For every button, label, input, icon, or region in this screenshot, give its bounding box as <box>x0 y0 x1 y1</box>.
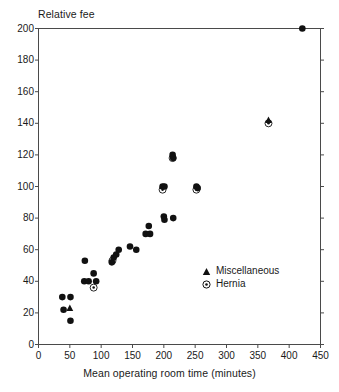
y-tick-label: 200 <box>4 23 34 34</box>
data-point <box>170 215 177 222</box>
data-point <box>90 270 97 277</box>
x-tick-label: 100 <box>86 350 116 361</box>
data-point <box>67 318 74 325</box>
data-point <box>115 246 122 253</box>
x-tick-label: 400 <box>274 350 304 361</box>
data-point <box>59 294 66 301</box>
scatter-plot-figure: Relative fee Mean operating room time (m… <box>0 0 339 392</box>
data-point <box>194 185 201 192</box>
y-tick-label: 60 <box>4 244 34 255</box>
x-tick-label: 450 <box>306 350 336 361</box>
y-tick-label: 120 <box>4 149 34 160</box>
legend-label-miscellaneous: Miscellaneous <box>216 266 279 276</box>
triangle-marker-icon <box>202 267 211 276</box>
data-point <box>161 183 168 190</box>
data-point <box>93 278 100 285</box>
plot-frame <box>39 29 321 345</box>
y-tick-label: 80 <box>4 212 34 223</box>
plot-canvas <box>0 0 339 392</box>
y-tick-label: 20 <box>4 307 34 318</box>
y-tick-label: 160 <box>4 86 34 97</box>
legend-item-hernia: Hernia <box>202 279 245 289</box>
x-axis-label: Mean operating room time (minutes) <box>0 367 339 379</box>
series-procedures <box>59 25 306 324</box>
x-tick-label: 0 <box>24 350 54 361</box>
data-point <box>145 223 152 230</box>
x-tick-label: 250 <box>180 350 210 361</box>
data-point <box>161 216 168 223</box>
data-point <box>67 294 74 301</box>
data-point-hernia-dot <box>92 286 95 289</box>
data-point-triangle <box>66 305 73 311</box>
data-point <box>170 155 177 162</box>
data-point-triangle <box>265 117 272 123</box>
data-point <box>127 243 134 250</box>
circled-dot-marker-icon <box>202 280 211 289</box>
y-tick-label: 180 <box>4 54 34 65</box>
x-tick-label: 150 <box>118 350 148 361</box>
y-tick-label: 140 <box>4 117 34 128</box>
y-tick-label: 0 <box>4 339 34 350</box>
legend-label-hernia: Hernia <box>216 279 245 289</box>
data-point <box>133 246 140 253</box>
y-axis-label: Relative fee <box>38 8 95 20</box>
legend-item-miscellaneous: Miscellaneous <box>202 266 279 276</box>
data-point <box>299 25 306 32</box>
x-tick-label: 50 <box>55 350 85 361</box>
data-point <box>82 257 89 264</box>
data-point <box>60 306 67 313</box>
y-tick-label: 40 <box>4 275 34 286</box>
y-tick-label: 100 <box>4 181 34 192</box>
data-point <box>85 278 92 285</box>
x-tick-label: 200 <box>149 350 179 361</box>
data-point <box>147 231 154 238</box>
x-tick-label: 350 <box>243 350 273 361</box>
x-tick-label: 300 <box>212 350 242 361</box>
